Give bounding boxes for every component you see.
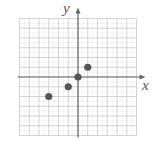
x-axis-label: x	[142, 78, 149, 93]
data-point	[84, 64, 91, 71]
coordinate-plane	[0, 0, 152, 147]
data-point	[74, 73, 81, 80]
y-axis-arrow-icon	[76, 8, 81, 14]
data-point	[45, 93, 52, 100]
y-axis-label: y	[63, 1, 70, 16]
data-point	[65, 83, 72, 90]
axes	[18, 8, 146, 138]
